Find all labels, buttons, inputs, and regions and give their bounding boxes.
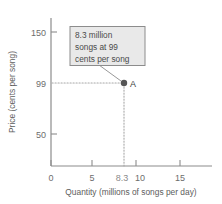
y-axis-title: Price (cents per song) [7,51,17,133]
x-tick-label-10: 10 [135,173,145,183]
y-tick-label-50: 50 [36,130,46,140]
callout-leader-line [99,65,121,81]
data-point-a[interactable] [121,80,127,86]
callout-line-2: songs at 99 [75,42,118,52]
x-tick-label-0: 0 [48,173,53,183]
x-axis-title: Quantity (millions of songs per day) [65,187,196,197]
x-tick-label-5: 5 [89,173,94,183]
data-point-a-label: A [130,79,136,89]
y-tick-label-99: 99 [36,79,46,89]
chart-figure: 8.3 million songs at 99 cents per song A… [0,0,222,204]
y-tick-label-150: 150 [31,28,46,38]
callout-line-1: 8.3 million [75,30,113,40]
callout-line-3: cents per song [75,54,130,64]
chart-canvas: 8.3 million songs at 99 cents per song A… [0,0,222,204]
x-tick-label-15: 15 [175,173,185,183]
x-tick-label-8-3: 8.3 [116,173,129,183]
